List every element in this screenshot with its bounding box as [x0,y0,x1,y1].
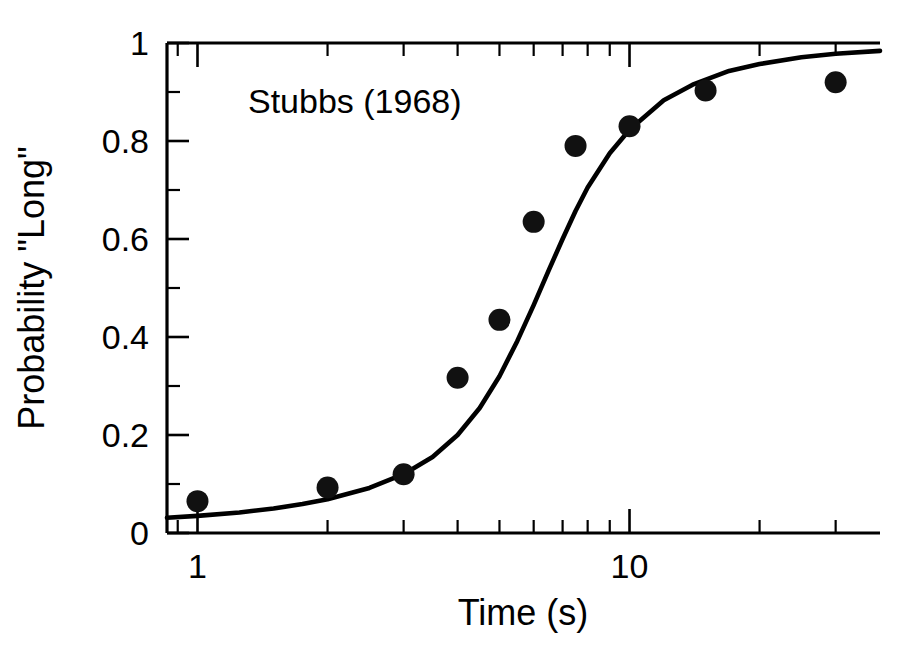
x-axis-tick-labels: 110 [188,547,648,585]
fitted-curve [167,51,880,518]
y-tick-label: 0.6 [102,220,149,258]
data-point [523,211,545,233]
y-tick-label: 0.8 [102,122,149,160]
data-point [447,367,469,389]
y-axis-ticks [167,43,189,533]
data-point [825,71,847,93]
data-point [393,463,415,485]
data-point [619,115,641,137]
chart-canvas: 00.20.40.60.81 110 Stubbs (1968) Time (s… [0,0,917,654]
y-axis-tick-labels: 00.20.40.60.81 [102,24,149,552]
x-tick-label: 10 [611,547,649,585]
y-axis-title: Probability "Long" [11,146,52,430]
y-tick-label: 0.4 [102,318,149,356]
data-point [488,309,510,331]
x-axis-title: Time (s) [458,592,589,633]
x-tick-label: 1 [188,547,207,585]
figure-container: 00.20.40.60.81 110 Stubbs (1968) Time (s… [0,0,917,654]
y-tick-label: 1 [130,24,149,62]
y-tick-label: 0.2 [102,416,149,454]
data-point [695,80,717,102]
annotation-stubbs-1968: Stubbs (1968) [248,82,462,120]
data-point-group [186,71,846,512]
data-point [565,135,587,157]
y-tick-label: 0 [130,514,149,552]
data-point [186,490,208,512]
data-point [317,476,339,498]
